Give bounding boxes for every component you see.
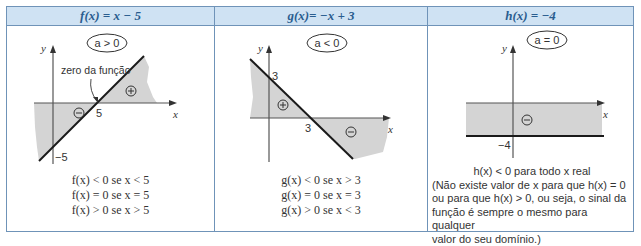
y-axis-label: y: [40, 42, 46, 54]
intercept-label: −4: [498, 139, 511, 151]
negative-region: [309, 118, 389, 159]
sign-table: f(x) = x − 5 a > 0 y x zero da função 5 …: [6, 6, 634, 232]
condition-line: g(x) < 0 se x > 3: [215, 173, 427, 188]
negative-region: [466, 103, 602, 136]
condition-line: g(x) > 0 se x < 3: [215, 203, 427, 218]
note-h: h(x) < 0 para todo x real (Não existe va…: [432, 165, 632, 246]
conditions-g: g(x) < 0 se x > 3 g(x) = 0 se x = 3 g(x)…: [215, 173, 427, 218]
zero-annotation: zero da função: [61, 64, 131, 76]
condition-line: f(x) > 0 se x > 5: [7, 203, 214, 218]
condition-line: h(x) < 0 para todo x real: [432, 165, 632, 179]
column-h: h(x) = −4 a = 0 y x −4 h(x) < 0 para tod…: [427, 7, 633, 231]
x-axis-label: x: [172, 108, 178, 120]
intercept-label: 3: [272, 70, 278, 82]
y-axis-arrow-icon: [50, 45, 56, 53]
y-axis-arrow-icon: [510, 45, 516, 53]
condition-line: g(x) = 0 se x = 3: [215, 188, 427, 203]
x-axis-label: x: [387, 123, 393, 135]
zero-pointer-arrowhead-icon: [93, 97, 98, 103]
y-axis-label: y: [501, 42, 507, 54]
x-axis-arrow-icon: [169, 100, 177, 106]
root-label: 3: [305, 122, 311, 134]
note-line: valor do seu domínio.): [432, 233, 632, 246]
y-axis-label: y: [257, 42, 263, 54]
conditions-f: f(x) < 0 se x < 5 f(x) = 0 se x = 5 f(x)…: [7, 173, 214, 218]
condition-line: f(x) = 0 se x = 5: [7, 188, 214, 203]
badge-a-negative: a < 0: [315, 37, 340, 49]
note-line: (Não existe valor de x para que h(x) = 0: [432, 179, 632, 193]
badge-a-zero: a = 0: [535, 34, 560, 46]
intercept-label: −5: [55, 151, 68, 163]
column-f: f(x) = x − 5 a > 0 y x zero da função 5 …: [7, 7, 214, 231]
x-axis-label: x: [602, 108, 608, 120]
note-line: função é sempre o mesmo para qualquer: [432, 206, 632, 233]
note-line: ou para que h(x) > 0, ou seja, o sinal d…: [432, 192, 632, 206]
y-axis-arrow-icon: [266, 45, 272, 53]
column-g: g(x)= −x + 3 a < 0 y x 3 3 g(x) < 0 se x…: [214, 7, 427, 231]
condition-line: f(x) < 0 se x < 5: [7, 173, 214, 188]
badge-a-positive: a > 0: [95, 37, 120, 49]
root-label: 5: [96, 107, 102, 119]
